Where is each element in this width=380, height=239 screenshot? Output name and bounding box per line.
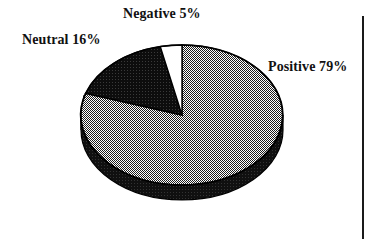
pie-label-positive: Positive 79% xyxy=(268,59,347,75)
pie-top-face xyxy=(80,45,283,185)
pie-label-neutral: Neutral 16% xyxy=(22,32,100,48)
pie-label-negative: Negative 5% xyxy=(123,6,201,22)
page-border-rule xyxy=(362,16,364,239)
pie-chart-figure: Negative 5% Neutral 16% Positive 79% xyxy=(0,0,380,239)
